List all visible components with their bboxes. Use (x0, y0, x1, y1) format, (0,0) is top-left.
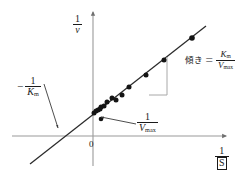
x-intercept-pointer (44, 84, 58, 128)
slope-vmax-subscript: max (224, 64, 234, 70)
regression-line (30, 26, 206, 164)
slope-denominator: Vmax (216, 61, 235, 71)
origin-label: 0 (89, 140, 94, 149)
lineweaver-burk-figure: 1 v 1 S 0 − 1 Km 1 Vmax 傾き＝ Km Vmax (0, 0, 247, 173)
slope-annotation-jp-text: 傾き (185, 55, 203, 65)
y-axis-label: 1 v (73, 14, 82, 35)
x-axis-label: 1 S (215, 146, 229, 170)
x-axis-label-denominator: S (215, 157, 229, 170)
slope-km-subscript: m (226, 53, 230, 59)
data-point (105, 100, 110, 105)
data-point (162, 58, 167, 63)
data-point (114, 98, 119, 103)
x-intercept-fraction: 1 Km (25, 76, 41, 98)
x-intercept-label: − 1 Km (17, 76, 41, 98)
minus-icon: − (17, 81, 23, 92)
y-axis-label-denominator: v (73, 25, 82, 35)
x-axis-label-fraction: 1 S (215, 146, 229, 170)
data-point (144, 73, 149, 78)
slope-annotation: 傾き＝ Km Vmax (185, 50, 235, 71)
x-axis-label-numerator: 1 (215, 146, 229, 157)
data-point (120, 93, 125, 98)
data-point (127, 85, 132, 90)
y-intercept-denominator: Vmax (137, 123, 158, 134)
scatter-points (92, 35, 195, 121)
y-intercept-label: 1 Vmax (137, 112, 158, 134)
km-subscript: m (34, 90, 39, 97)
y-intercept-fraction: 1 Vmax (137, 112, 158, 134)
substrate-bracket: S (217, 157, 227, 170)
data-point (189, 35, 195, 41)
vmax-subscript: max (145, 126, 156, 133)
data-point (102, 104, 107, 109)
x-intercept-denominator: Km (25, 87, 41, 98)
km-symbol: K (27, 86, 34, 97)
equals-sign: ＝ (205, 55, 214, 65)
slope-fraction: Km Vmax (216, 50, 235, 71)
y-axis-label-fraction: 1 v (73, 14, 82, 35)
y-intercept-pointer (101, 117, 136, 124)
